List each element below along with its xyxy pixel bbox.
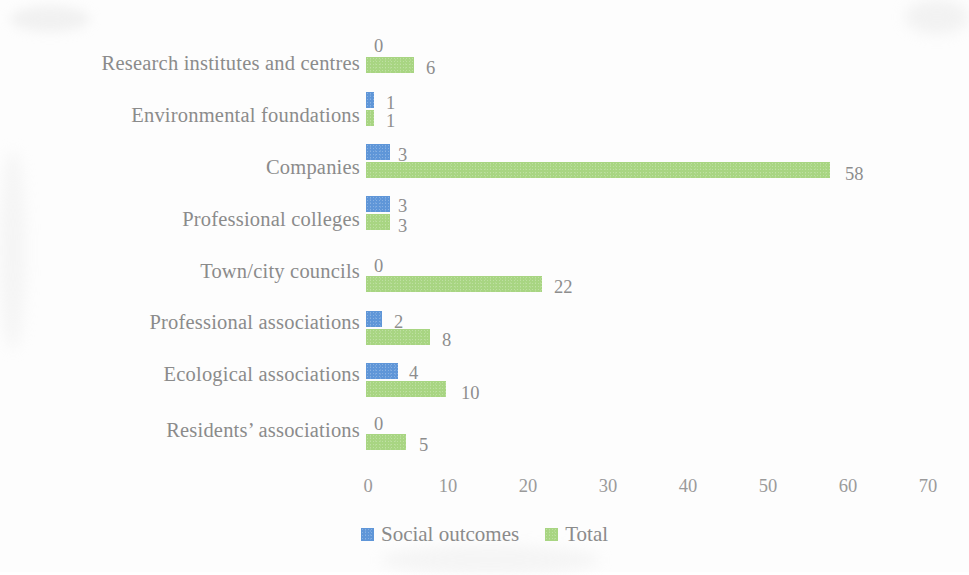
bar-value-label: 5 (419, 435, 428, 456)
bar-texture (366, 381, 446, 397)
bar-total (366, 434, 406, 450)
bar-value-label: 8 (442, 330, 451, 351)
bar-texture (366, 110, 374, 126)
category-label: Professional colleges (182, 208, 360, 231)
x-axis-tick-label: 40 (679, 476, 698, 497)
bar-total (366, 276, 542, 292)
bar-value-label: 0 (374, 414, 383, 435)
bar-texture (366, 276, 542, 292)
x-axis-tick-label: 10 (439, 476, 458, 497)
swatch-texture (545, 528, 558, 541)
swatch-texture (361, 528, 374, 541)
bar-social-outcomes (366, 311, 382, 327)
x-axis-tick-label: 60 (839, 476, 858, 497)
bar-texture (366, 144, 390, 160)
category-label: Environmental foundations (131, 104, 360, 127)
bar-texture (366, 363, 398, 379)
bar-texture (366, 434, 406, 450)
x-axis-tick-label: 20 (519, 476, 538, 497)
bar-value-label: 3 (398, 216, 407, 237)
legend-label: Social outcomes (381, 522, 519, 547)
bar-social-outcomes (366, 363, 398, 379)
legend-label: Total (565, 522, 608, 547)
category-label: Ecological associations (164, 363, 360, 386)
bar-value-label: 6 (426, 58, 435, 79)
bar-total (366, 214, 390, 230)
bar-value-label: 10 (461, 383, 480, 404)
legend-item-social-outcomes[interactable]: Social outcomes (361, 522, 519, 547)
bar-value-label: 58 (845, 164, 864, 185)
chart-legend: Social outcomes Total (0, 522, 969, 547)
x-axis-tick-label: 50 (759, 476, 778, 497)
category-label: Town/city councils (200, 260, 360, 283)
legend-item-total[interactable]: Total (545, 522, 608, 547)
square-marker-icon (361, 528, 374, 541)
bar-total (366, 110, 374, 126)
bar-value-label: 0 (374, 36, 383, 57)
bar-texture (366, 92, 374, 108)
bar-texture (366, 214, 390, 230)
bar-total (366, 381, 446, 397)
bar-value-label: 22 (554, 277, 573, 298)
x-axis-tick-label: 30 (599, 476, 618, 497)
bar-texture (366, 162, 830, 178)
bar-total (366, 162, 830, 178)
x-axis-tick-label: 70 (919, 476, 938, 497)
bar-total (366, 57, 414, 73)
bar-texture (366, 311, 382, 327)
category-label: Research institutes and centres (102, 52, 360, 75)
bar-value-label: 3 (398, 196, 407, 217)
bar-social-outcomes (366, 144, 390, 160)
bar-value-label: 1 (386, 111, 395, 132)
bar-texture (366, 57, 414, 73)
bar-texture (366, 329, 430, 345)
category-label: Residents’ associations (166, 419, 360, 442)
bar-texture (366, 196, 390, 212)
category-label: Professional associations (149, 311, 360, 334)
bar-social-outcomes (366, 196, 390, 212)
bar-total (366, 329, 430, 345)
bar-social-outcomes (366, 92, 374, 108)
x-axis-tick-label: 0 (363, 476, 372, 497)
square-marker-icon (545, 528, 558, 541)
category-label: Companies (266, 156, 360, 179)
bar-value-label: 0 (374, 256, 383, 277)
